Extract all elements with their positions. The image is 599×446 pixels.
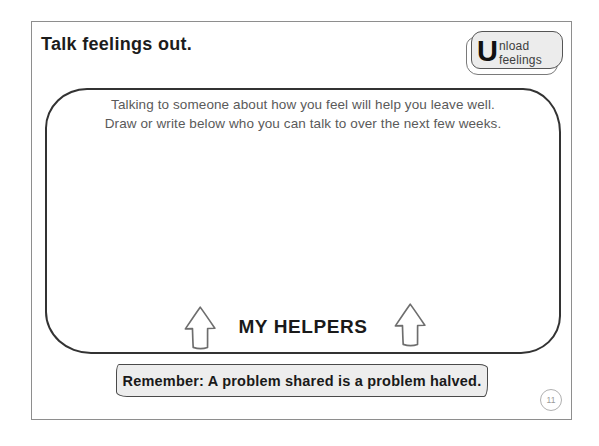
instruction-line-2: Draw or write below who you can talk to …: [47, 115, 559, 134]
badge-initial-letter: U: [477, 37, 498, 66]
worksheet-page: Talk feelings out. U nload feelings Talk…: [31, 21, 572, 420]
my-helpers-caption: MY HELPERS: [47, 316, 559, 338]
unload-feelings-badge: U nload feelings: [466, 30, 566, 78]
instruction-line-1: Talking to someone about how you feel wi…: [47, 96, 559, 115]
page-title: Talk feelings out.: [41, 34, 192, 55]
badge-face: U nload feelings: [471, 31, 563, 69]
reminder-banner: Remember: A problem shared is a problem …: [116, 364, 488, 397]
reminder-text: Remember: A problem shared is a problem …: [123, 373, 482, 389]
up-arrow-icon-right: [392, 301, 428, 347]
badge-label: nload feelings: [499, 39, 562, 67]
page-number-badge: 11: [540, 389, 562, 411]
helpers-drawing-area[interactable]: Talking to someone about how you feel wi…: [45, 88, 561, 354]
instructions: Talking to someone about how you feel wi…: [47, 96, 559, 133]
